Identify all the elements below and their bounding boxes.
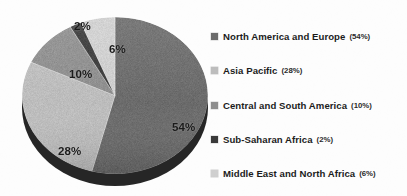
- pie-slices-canvas: [22, 17, 208, 174]
- slice-label-sub-saharan-africa: 2%: [74, 20, 91, 32]
- legend-swatch-icon: [211, 33, 218, 40]
- legend-percent: (6%): [359, 169, 375, 178]
- legend-item-sub-saharan-africa: Sub-Saharan Africa (2%): [211, 133, 407, 146]
- legend-label: Middle East and North Africa: [223, 168, 355, 179]
- chart-legend: North America and Europe (54%) Asia Paci…: [211, 30, 407, 180]
- legend-item-middle-east-north-africa: Middle East and North Africa (6%): [211, 167, 407, 180]
- legend-swatch-icon: [211, 170, 218, 177]
- slice-label-middle-east-north-africa: 6%: [109, 43, 126, 55]
- legend-percent: (2%): [317, 135, 333, 144]
- legend-percent: (28%): [281, 66, 302, 75]
- legend-label: Central and South America: [223, 100, 347, 111]
- legend-swatch-icon: [211, 67, 218, 74]
- slice-label-central-south-america: 10%: [69, 68, 92, 80]
- chart-page: 54% 28% 10% 2% 6% North America and Euro…: [0, 0, 407, 196]
- legend-swatch-icon: [211, 136, 218, 143]
- slice-label-asia-pacific: 28%: [58, 145, 81, 157]
- slice-label-north-america-europe: 54%: [172, 121, 195, 133]
- legend-item-central-south-america: Central and South America (10%): [211, 99, 407, 112]
- pie-face: [22, 17, 208, 174]
- legend-label: Sub-Saharan Africa: [223, 134, 313, 145]
- legend-label: Asia Pacific: [223, 65, 277, 76]
- legend-percent: (10%): [351, 101, 372, 110]
- legend-percent: (54%): [349, 32, 370, 41]
- legend-item-north-america-europe: North America and Europe (54%): [211, 30, 407, 43]
- legend-swatch-icon: [211, 102, 218, 109]
- pie-chart: 54% 28% 10% 2% 6%: [22, 17, 208, 189]
- legend-item-asia-pacific: Asia Pacific (28%): [211, 64, 407, 77]
- legend-label: North America and Europe: [223, 31, 345, 42]
